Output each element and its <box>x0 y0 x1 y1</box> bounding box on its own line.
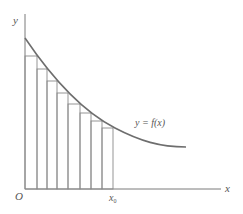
function-curve <box>25 38 186 147</box>
rectangle-5 <box>68 104 80 189</box>
rectangles <box>25 56 113 189</box>
rectangle-7 <box>91 121 102 189</box>
rectangle-8 <box>102 128 113 189</box>
rectangle-4 <box>57 93 68 189</box>
rectangle-3 <box>47 81 57 189</box>
origin-label: O <box>15 190 23 202</box>
riemann-sum-diagram: y x O y = f(x) x0 <box>0 0 243 214</box>
curve-label: y = f(x) <box>134 117 166 129</box>
y-axis-label: y <box>12 14 18 26</box>
x0-label: x0 <box>108 192 116 204</box>
rectangle-2 <box>37 69 47 189</box>
rectangle-6 <box>80 113 91 189</box>
x-axis-label: x <box>224 182 230 194</box>
rectangle-1 <box>25 56 37 189</box>
x0-subscript: 0 <box>113 198 116 204</box>
